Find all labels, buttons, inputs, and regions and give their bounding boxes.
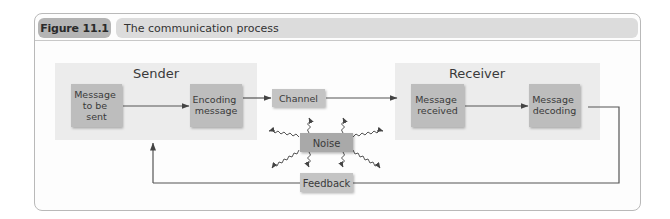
node-message-to-be-sent: Message to be sent [71, 84, 122, 127]
receiver-label: Receiver [449, 66, 506, 81]
node-message-received: Message received [411, 84, 464, 127]
svg-text:Feedback: Feedback [303, 178, 351, 189]
node-noise: Noise [300, 133, 353, 152]
sender-label: Sender [133, 66, 180, 81]
node-message-decoding: Message decoding [529, 84, 580, 127]
svg-text:Message decoding: Message decoding [532, 94, 577, 116]
node-channel: Channel [272, 89, 325, 107]
communication-diagram: Sender Receiver Mess [0, 0, 670, 219]
svg-text:Noise: Noise [313, 138, 341, 149]
node-feedback: Feedback [300, 173, 353, 192]
svg-text:Encoding message: Encoding message [193, 94, 240, 116]
node-encoding-message: Encoding message [190, 84, 242, 127]
svg-text:Channel: Channel [279, 93, 318, 104]
svg-text:Message received: Message received [415, 94, 460, 116]
